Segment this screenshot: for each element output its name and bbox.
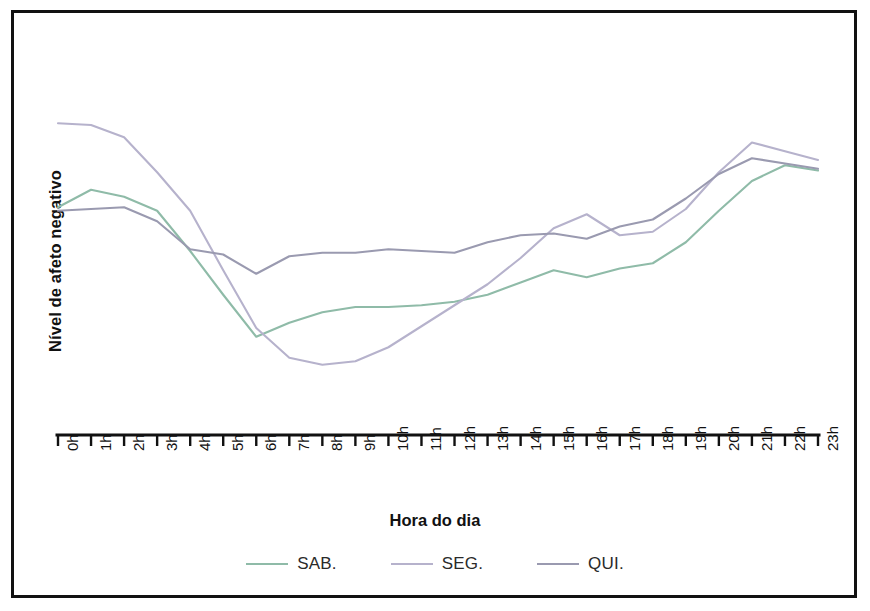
x-tick-label: 1h — [97, 434, 114, 451]
x-tick-label: 2h — [130, 434, 147, 451]
series-line-seg — [58, 123, 818, 365]
x-tick-label: 21h — [758, 426, 775, 451]
legend-label: QUI. — [588, 554, 624, 574]
x-tick-label: 15h — [560, 426, 577, 451]
legend-item-seg[interactable]: SEG. — [391, 554, 483, 574]
x-tick-label: 4h — [196, 434, 213, 451]
x-tick-label: 14h — [527, 426, 544, 451]
x-tick-label: 10h — [394, 426, 411, 451]
x-tick-label: 16h — [593, 426, 610, 451]
x-tick-label: 0h — [64, 434, 81, 451]
legend-item-sab[interactable]: SAB. — [246, 554, 337, 574]
x-tick-label: 8h — [328, 434, 345, 451]
chart-figure: Nível de afeto negativo 0h1h2h3h4h5h6h7h… — [0, 0, 870, 611]
x-axis-title: Hora do dia — [0, 511, 870, 530]
chart-legend: SAB.SEG.QUI. — [0, 554, 870, 574]
x-tick-label: 13h — [494, 426, 511, 451]
legend-swatch — [246, 563, 288, 565]
x-tick-label: 18h — [659, 426, 676, 451]
series-line-qui — [58, 158, 818, 274]
x-tick-label: 3h — [163, 434, 180, 451]
series-group — [58, 123, 818, 365]
x-tick-label: 20h — [725, 426, 742, 451]
x-tick-label: 22h — [791, 426, 808, 451]
x-tick-label: 23h — [824, 426, 841, 451]
x-tick-label: 19h — [692, 426, 709, 451]
legend-label: SAB. — [297, 554, 337, 574]
legend-swatch — [537, 563, 579, 565]
x-tick-label: 9h — [361, 434, 378, 451]
x-tick-label: 5h — [229, 434, 246, 451]
x-tick-label: 17h — [626, 426, 643, 451]
x-tick-label: 11h — [427, 427, 444, 451]
x-tick-label: 12h — [461, 426, 478, 451]
legend-label: SEG. — [442, 554, 483, 574]
x-tick-label: 6h — [262, 434, 279, 451]
x-tick-label: 7h — [295, 434, 312, 451]
legend-item-qui[interactable]: QUI. — [537, 554, 624, 574]
legend-swatch — [391, 563, 433, 565]
